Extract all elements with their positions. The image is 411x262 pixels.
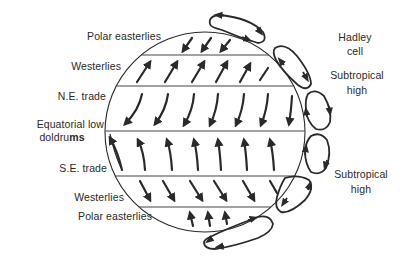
- polar-cell-south: [204, 216, 273, 249]
- label-hadley-line2: cell: [330, 45, 380, 57]
- label-westerlies-north: Westerlies: [40, 60, 121, 72]
- label-subtropical-high-south-line2: high: [326, 183, 396, 195]
- label-subtropical-high-north-line1: Subtropical: [322, 69, 392, 81]
- label-westerlies-south: Westerlies: [40, 191, 124, 203]
- se-trade-arrows: [110, 138, 274, 170]
- ferrel-cell-north: [274, 46, 311, 88]
- label-equatorial-low: Equatorial low: [0, 118, 104, 130]
- polar-easterlies-south-arrows: [190, 213, 227, 226]
- label-ne-trade: N.E. trade: [20, 90, 106, 102]
- polar-cell-north: [210, 15, 265, 43]
- label-subtropical-high-south-line1: Subtropical: [326, 168, 396, 180]
- label-doldrums: doldrums: [30, 131, 94, 143]
- westerlies-south-arrows: [140, 181, 277, 200]
- latitude-lines: [100, 55, 310, 207]
- circulation-diagram: Polar easterlies Westerlies N.E. trade E…: [0, 0, 411, 262]
- label-polar-easterlies-north: Polar easterlies: [40, 30, 161, 42]
- wind-arrows: [110, 38, 292, 226]
- hadley-cell-north: [306, 91, 331, 129]
- label-hadley-line1: Hadley: [330, 31, 380, 43]
- label-doldrums-part1: doldru: [39, 131, 69, 143]
- ferrel-cell-south: [276, 176, 311, 212]
- label-polar-easterlies-south: Polar easterlies: [40, 210, 152, 222]
- westerlies-north-arrows: [137, 62, 268, 82]
- label-se-trade: S.E. trade: [30, 162, 107, 174]
- label-doldrums-part2: ms: [69, 131, 84, 143]
- label-subtropical-high-north-line2: high: [322, 84, 392, 96]
- polar-easterlies-north-arrows: [183, 38, 230, 51]
- ne-trade-arrows: [125, 94, 292, 125]
